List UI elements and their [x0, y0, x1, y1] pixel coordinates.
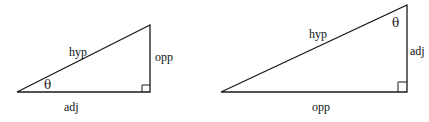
theta-label: θ: [392, 16, 399, 30]
right-angle-marker: [142, 85, 150, 92]
right-triangle: hyp adj opp θ: [221, 5, 425, 114]
right-triangle-outline: [221, 5, 407, 92]
trig-diagram: hyp opp adj θ hyp adj opp θ: [0, 0, 429, 122]
opp-label: opp: [312, 100, 330, 114]
opp-label: opp: [155, 50, 173, 64]
left-triangle: hyp opp adj θ: [17, 25, 173, 114]
right-angle-marker: [398, 82, 407, 92]
adj-label: adj: [410, 44, 425, 58]
theta-label: θ: [44, 78, 51, 92]
hyp-label: hyp: [309, 27, 327, 41]
adj-label: adj: [64, 100, 79, 114]
hyp-label: hyp: [69, 45, 87, 59]
